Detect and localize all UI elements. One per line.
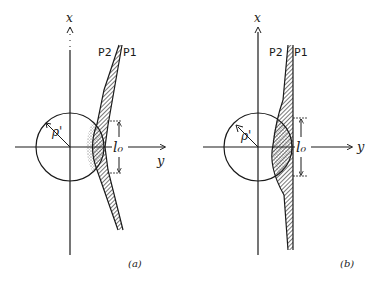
y-axis-label: y bbox=[356, 139, 365, 154]
radius-label: ρ' bbox=[51, 125, 62, 139]
panel-b: x y ρ' P2 P1 l₀ (b) bbox=[203, 11, 365, 269]
length-label: l₀ bbox=[296, 139, 306, 155]
caption-b: (b) bbox=[340, 258, 354, 269]
hatched-region bbox=[272, 45, 293, 250]
length-label: l₀ bbox=[113, 139, 123, 155]
radius-label: ρ' bbox=[240, 129, 251, 143]
label-p1: P1 bbox=[294, 46, 308, 59]
figure: x y ρ' P2 P1 l₀ (a) x y ρ' bbox=[0, 0, 374, 282]
diagram-canvas: x y ρ' P2 P1 l₀ (a) x y ρ' bbox=[0, 0, 374, 282]
x-axis-label: x bbox=[254, 11, 261, 25]
x-axis-label: x bbox=[66, 11, 73, 25]
y-axis-label: y bbox=[156, 153, 165, 168]
panel-a: x y ρ' P2 P1 l₀ (a) bbox=[15, 11, 165, 269]
label-p1: P1 bbox=[123, 46, 137, 59]
x-axis-arrow-icon bbox=[67, 27, 73, 33]
label-p2: P2 bbox=[269, 46, 283, 59]
caption-a: (a) bbox=[128, 258, 142, 269]
label-p2: P2 bbox=[98, 46, 112, 59]
